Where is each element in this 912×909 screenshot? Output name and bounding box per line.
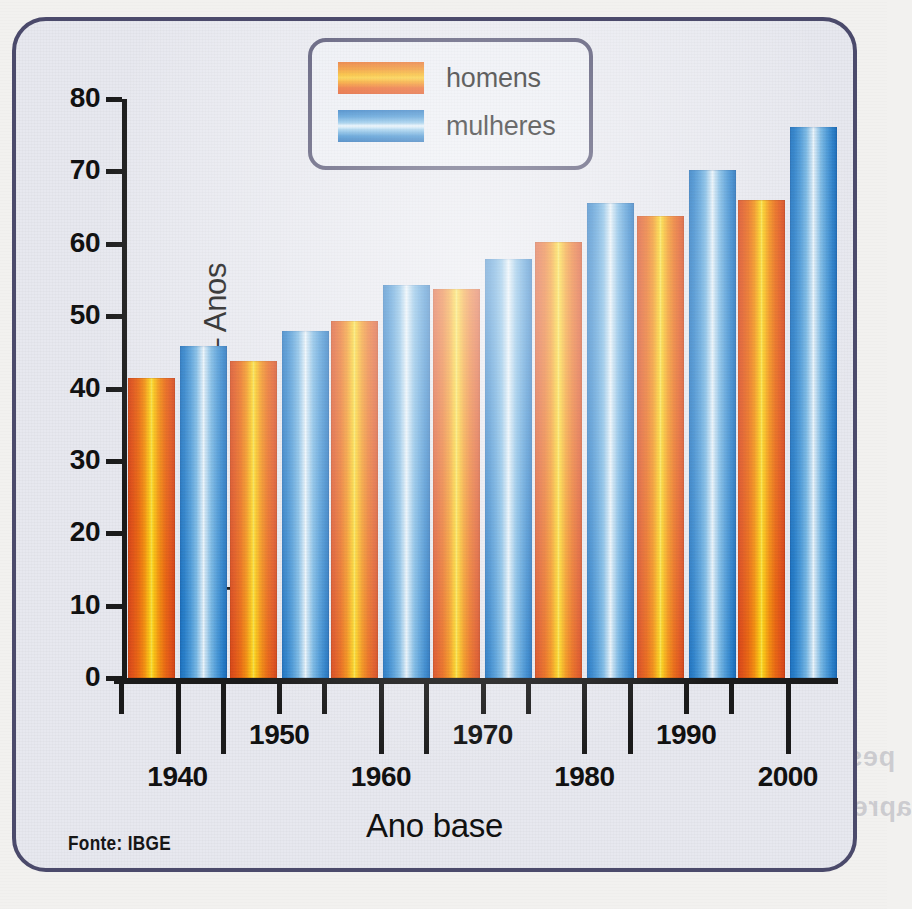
legend-entry-mulheres: mulheres xyxy=(338,110,555,142)
x-tick xyxy=(684,684,689,714)
x-tick-boundary xyxy=(119,684,124,714)
x-tick-label: 1990 xyxy=(656,719,716,751)
bar-mulheres-2000 xyxy=(790,127,837,678)
plot-area: 01020304050607080 1940195019601970198019… xyxy=(122,99,834,678)
bar-mulheres-1940 xyxy=(180,346,227,678)
bar-homens-1940 xyxy=(128,378,175,678)
y-tick-label: 70 xyxy=(70,155,100,187)
bar-group xyxy=(122,99,834,678)
legend-entry-homens: homens xyxy=(338,62,541,94)
bar-homens-1950 xyxy=(230,361,277,678)
y-tick-label: 50 xyxy=(70,299,100,331)
bar-mulheres-1970 xyxy=(485,259,532,678)
x-tick-boundary xyxy=(526,684,531,714)
y-tick xyxy=(106,314,122,319)
x-tick-label: 2000 xyxy=(758,761,818,793)
x-tick-boundary xyxy=(424,684,429,754)
y-tick-label: 20 xyxy=(70,517,100,549)
y-tick xyxy=(106,531,122,536)
x-tick-boundary xyxy=(322,684,327,714)
x-tick-label: 1950 xyxy=(249,719,309,751)
y-tick xyxy=(106,387,122,392)
bar-homens-1970 xyxy=(433,289,480,678)
x-tick-boundary xyxy=(729,684,734,714)
x-tick-label: 1960 xyxy=(351,761,411,793)
x-tick-label: 1980 xyxy=(554,761,614,793)
bar-mulheres-1950 xyxy=(282,331,329,678)
bar-mulheres-1980 xyxy=(587,203,634,678)
source-note: Fonte: IBGE xyxy=(68,831,171,855)
x-tick-label: 1940 xyxy=(147,761,207,793)
x-tick xyxy=(582,684,587,754)
bar-homens-1980 xyxy=(535,242,582,678)
bar-homens-2000 xyxy=(738,200,785,678)
x-tick-boundary xyxy=(628,684,633,754)
y-tick-label: 80 xyxy=(70,82,100,114)
x-tick-label: 1970 xyxy=(452,719,512,751)
legend-label-mulheres: mulheres xyxy=(446,111,555,142)
bar-mulheres-1960 xyxy=(383,285,430,678)
homens-swatch-icon xyxy=(338,62,424,94)
bar-mulheres-1990 xyxy=(689,170,736,678)
chart-legend: homens mulheres xyxy=(308,38,593,170)
x-tick xyxy=(277,684,282,714)
y-tick-label: 0 xyxy=(85,661,100,693)
y-tick-label: 60 xyxy=(70,227,100,259)
y-tick-label: 10 xyxy=(70,589,100,621)
mulheres-swatch-icon xyxy=(338,110,424,142)
y-tick xyxy=(106,676,122,681)
y-tick xyxy=(106,242,122,247)
bar-homens-1990 xyxy=(637,216,684,678)
y-tick xyxy=(106,97,122,102)
y-tick xyxy=(106,459,122,464)
x-tick-boundary xyxy=(221,684,226,754)
y-tick xyxy=(106,604,122,609)
y-tick-label: 40 xyxy=(70,372,100,404)
y-tick-label: 30 xyxy=(70,444,100,476)
x-tick xyxy=(481,684,486,714)
bar-homens-1960 xyxy=(331,321,378,678)
x-tick xyxy=(786,684,791,754)
x-tick xyxy=(176,684,181,754)
chart-figure-frame: Expectativa de vida – Anos 0102030405060… xyxy=(12,17,857,872)
x-tick xyxy=(379,684,384,754)
y-tick xyxy=(106,169,122,174)
legend-label-homens: homens xyxy=(446,63,541,94)
